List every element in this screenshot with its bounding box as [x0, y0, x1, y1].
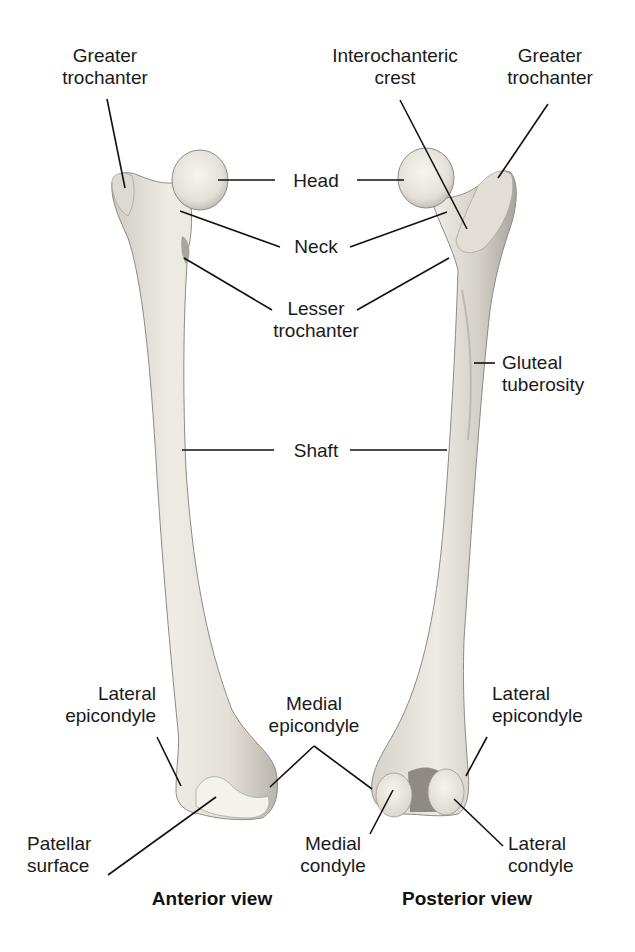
label-patellar-surface: Patellarsurface — [27, 833, 91, 877]
label-line: Medial — [300, 833, 366, 855]
label-greater-trochanter-anterior: Greatertrochanter — [62, 45, 148, 89]
label-line: surface — [27, 855, 91, 877]
leader-line-neck — [350, 212, 447, 247]
label-line: condyle — [508, 855, 574, 877]
label-line: trochanter — [273, 320, 359, 342]
caption-posterior-view: Posterior view — [402, 888, 532, 910]
label-medial-condyle: Medialcondyle — [300, 833, 366, 877]
leader-line-lateral-condyle — [454, 799, 503, 846]
label-lesser-trochanter: Lessertrochanter — [273, 298, 359, 342]
label-line: Head — [293, 170, 338, 192]
label-line: Lesser — [273, 298, 359, 320]
leader-line-patellar-surface — [108, 797, 216, 875]
label-line: Greater — [507, 45, 593, 67]
label-interochanteric-crest: Interochantericcrest — [332, 45, 458, 89]
label-line: Greater — [62, 45, 148, 67]
leader-line-greater-trochanter-posterior — [498, 104, 548, 178]
label-line: Lateral — [65, 683, 156, 705]
label-line: condyle — [300, 855, 366, 877]
label-line: epicondyle — [492, 705, 583, 727]
label-line: trochanter — [507, 67, 593, 89]
label-neck: Neck — [294, 236, 337, 258]
leader-line-lateral-epicondyle-posterior — [466, 737, 487, 776]
label-line: Lateral — [508, 833, 574, 855]
label-lateral-condyle: Lateralcondyle — [508, 833, 574, 877]
label-line: Gluteal — [502, 352, 584, 374]
label-shaft: Shaft — [294, 440, 338, 462]
label-line: Lateral — [492, 683, 583, 705]
femur-diagram: GreatertrochanterInterochantericcrestGre… — [0, 0, 635, 952]
leader-line-lesser-trochanter — [184, 258, 272, 310]
label-gluteal-tuberosity: Glutealtuberosity — [502, 352, 584, 396]
label-line: Interochanteric — [332, 45, 458, 67]
label-lateral-epicondyle-anterior: Lateralepicondyle — [65, 683, 156, 727]
label-line: Medial — [269, 693, 360, 715]
label-line: epicondyle — [65, 705, 156, 727]
leader-line-medial-epicondyle — [314, 746, 372, 789]
leader-line-neck — [180, 211, 280, 247]
leader-line-medial-epicondyle — [270, 746, 314, 787]
femur-illustration — [0, 0, 635, 952]
label-line: Neck — [294, 236, 337, 258]
label-line: trochanter — [62, 67, 148, 89]
label-medial-epicondyle: Medialepicondyle — [269, 693, 360, 737]
label-line: tuberosity — [502, 374, 584, 396]
leader-line-lesser-trochanter — [357, 258, 449, 310]
label-line: crest — [332, 67, 458, 89]
label-line: epicondyle — [269, 715, 360, 737]
label-line: Shaft — [294, 440, 338, 462]
label-greater-trochanter-posterior: Greatertrochanter — [507, 45, 593, 89]
label-head: Head — [293, 170, 338, 192]
caption-anterior-view: Anterior view — [152, 888, 272, 910]
label-lateral-epicondyle-posterior: Lateralepicondyle — [492, 683, 583, 727]
label-line: Patellar — [27, 833, 91, 855]
